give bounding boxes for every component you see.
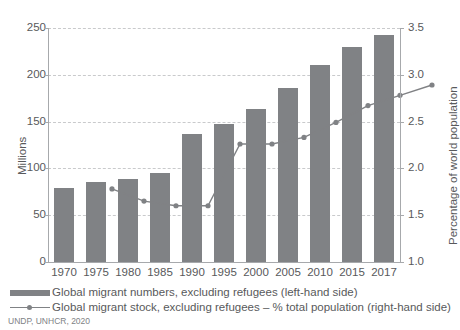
left-axis-tick-mark	[44, 75, 48, 76]
line-marker: 1990: 2.56%	[237, 141, 242, 146]
x-axis-line	[48, 262, 400, 263]
left-axis-tick-mark	[44, 262, 48, 263]
x-axis-tick-label: 1990	[176, 266, 208, 278]
line-marker: 1970: 2.08%	[109, 186, 114, 191]
x-axis-tick-label: 1985	[144, 266, 176, 278]
right-axis-tick-label: 3.0	[408, 69, 424, 81]
legend-label-line: Global migrant stock, excluding refugees…	[52, 300, 451, 315]
x-axis-tick-label: 1980	[112, 266, 144, 278]
line-marker-swatch-icon	[8, 300, 52, 315]
right-axis-tick-mark	[400, 122, 404, 123]
x-axis-tick-label: 2010	[304, 266, 336, 278]
left-axis-tick-mark	[44, 168, 48, 169]
legend-item-line: Global migrant stock, excluding refugees…	[8, 300, 456, 315]
right-axis-tick-label: 1.0	[408, 256, 424, 268]
right-axis-line	[400, 28, 401, 262]
right-axis-tick-label: 3.5	[408, 22, 424, 34]
gridline	[48, 28, 400, 29]
line-marker: 1980: 1.9%	[173, 203, 178, 208]
plot-area: 1970: 2.08%1975: 1.95%1980: 1.9%1985: 1.…	[48, 28, 400, 262]
chart-container: 1970: 2.08%1975: 1.95%1980: 1.9%1985: 1.…	[0, 0, 460, 330]
x-axis-tick-label: 1970	[48, 266, 80, 278]
line-marker: 1975: 1.95%	[141, 198, 146, 203]
x-axis-tick-label: 2015	[336, 266, 368, 278]
right-axis-tick-mark	[400, 28, 404, 29]
line-marker: 2010: 2.97%	[365, 103, 370, 108]
left-axis-tick-mark	[44, 28, 48, 29]
right-axis-tick-label: 2.5	[408, 116, 424, 128]
right-axis-tick-mark	[400, 262, 404, 263]
line-marker: 2005: 2.79%	[333, 120, 338, 125]
x-axis-tick-label: 2017	[368, 266, 400, 278]
line-marker: 1985: 1.9%	[205, 203, 210, 208]
x-axis-tick-label: 1975	[80, 266, 112, 278]
legend: Global migrant numbers, excluding refuge…	[8, 285, 456, 315]
x-axis-tick-label: 1995	[208, 266, 240, 278]
line-marker: 2017: 3.19%	[429, 82, 434, 87]
left-axis-tick-mark	[44, 122, 48, 123]
right-axis-tick-mark	[400, 75, 404, 76]
source-note: UNDP, UNHCR, 2020	[8, 316, 90, 326]
legend-label-bar: Global migrant numbers, excluding refuge…	[52, 285, 358, 300]
right-axis-tick-label: 1.5	[408, 209, 424, 221]
line-marker: 2000: 2.63%	[301, 135, 306, 140]
right-axis-tick-mark	[400, 215, 404, 216]
line-marker: 1995: 2.56%	[269, 141, 274, 146]
x-axis-tick-label: 2000	[240, 266, 272, 278]
line-series: 1970: 2.08%1975: 1.95%1980: 1.9%1985: 1.…	[96, 56, 448, 290]
bar	[54, 188, 74, 262]
legend-item-bar: Global migrant numbers, excluding refuge…	[8, 285, 456, 300]
right-axis-tick-label: 2.0	[408, 162, 424, 174]
right-axis-title: Percentage of world population	[447, 86, 459, 245]
left-axis-title: Millions	[16, 137, 28, 175]
bar-swatch-icon	[8, 285, 52, 300]
x-axis-tick-label: 2005	[272, 266, 304, 278]
left-axis-line	[48, 28, 49, 262]
right-axis-tick-mark	[400, 168, 404, 169]
left-axis-tick-mark	[44, 215, 48, 216]
